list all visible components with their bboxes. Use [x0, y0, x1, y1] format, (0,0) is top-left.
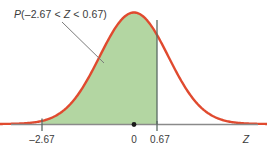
shaded-probability-area: [42, 12, 157, 124]
mean-marker-dot: [132, 122, 137, 127]
tick-label-0: 0: [131, 134, 137, 145]
x-axis-label: Z: [242, 133, 250, 145]
annotation-close: < 0.67): [70, 8, 107, 20]
normal-distribution-figure: P(–2.67 < Z < 0.67) –2.67 0 0.67 Z: [0, 0, 267, 154]
tick-label-0.67: 0.67: [150, 134, 170, 145]
annotation-open: (–2.67 <: [21, 8, 64, 20]
annotation-p: P: [14, 8, 21, 20]
probability-plot: P(–2.67 < Z < 0.67) –2.67 0 0.67 Z: [0, 0, 267, 154]
annotation-leader-line: [62, 22, 104, 63]
probability-annotation-label: P(–2.67 < Z < 0.67): [14, 8, 107, 20]
tick-label--2.67: –2.67: [29, 134, 55, 145]
